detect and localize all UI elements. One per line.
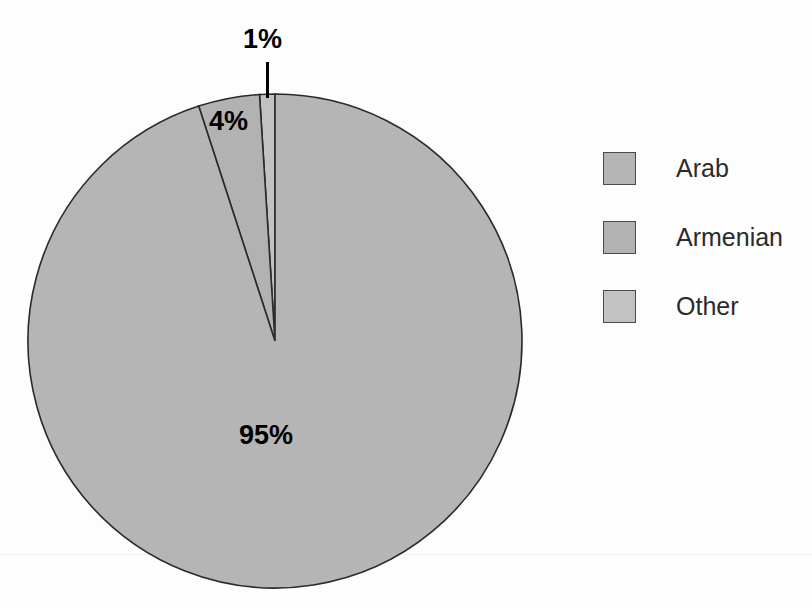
chart-canvas: 1% 4% 95% Arab Armenian Other <box>0 0 812 607</box>
legend-label-armenian: Armenian <box>676 225 783 250</box>
legend-swatch-other <box>603 290 636 323</box>
pie-chart-svg <box>0 0 600 607</box>
pie-slice-group <box>28 94 522 588</box>
legend-label-arab: Arab <box>676 156 729 181</box>
chart-legend: Arab Armenian Other <box>603 152 812 323</box>
legend-swatch-armenian <box>603 221 636 254</box>
legend-swatch-arab <box>603 152 636 185</box>
legend-item-other[interactable]: Other <box>603 290 812 323</box>
slice-label-other: 1% <box>243 26 282 53</box>
pie-slice-arab[interactable] <box>28 94 522 588</box>
slice-label-arab: 95% <box>239 422 293 449</box>
pie-chart-area <box>0 0 600 607</box>
leader-line-other <box>266 62 269 98</box>
legend-label-other: Other <box>676 294 739 319</box>
legend-item-arab[interactable]: Arab <box>603 152 812 185</box>
slice-label-armenian: 4% <box>209 108 248 135</box>
legend-item-armenian[interactable]: Armenian <box>603 221 812 254</box>
